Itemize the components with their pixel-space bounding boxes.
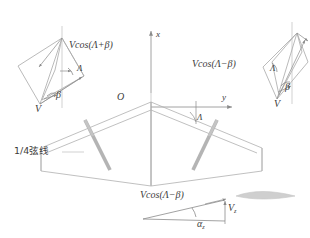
axis-system [151, 31, 232, 185]
right-component-label: Vcos(Λ−β) [192, 59, 236, 69]
bottom-component-label: Vcos(Λ−β) [140, 190, 184, 200]
hypotenuse-arrow [205, 199, 226, 204]
y-axis-label: y [222, 93, 226, 102]
left-spar-inner [85, 120, 93, 136]
right-beta-angle-label: β [285, 82, 290, 92]
right-spar-inner [209, 120, 217, 136]
quarter-chord-note: 1/4弦线 [14, 146, 49, 156]
alpha-arc [192, 208, 196, 217]
wing-planform [41, 102, 262, 186]
wing-sweep-angle-label: Λ [197, 113, 202, 122]
right-sweep-angle-label: Λ [270, 64, 275, 73]
airfoil-section [236, 192, 295, 200]
vertical-component-sub: z [234, 207, 236, 214]
bottom-velocity-triangle [143, 199, 226, 224]
left-sweep-angle-label: Λ [77, 64, 82, 73]
vertical-component-label: Vz [228, 203, 237, 214]
aerodynamics-sweep-diagram: x y O Λ 1/4弦线 Vcos(Λ+β) Λ β V Vcos(Λ−β) … [0, 0, 310, 238]
origin-label: O [117, 92, 124, 102]
diagram-canvas [0, 0, 310, 238]
airfoil-shape [236, 192, 295, 200]
alpha-sub: z [202, 223, 204, 230]
left-beta-angle-label: β [56, 90, 61, 100]
triangle-hypotenuse [143, 200, 225, 219]
left-component-label: Vcos(Λ+β) [69, 40, 113, 50]
alpha-angle-label: αz [197, 219, 205, 230]
right-velocity-label: V [274, 99, 280, 109]
left-velocity-label: V [35, 104, 41, 114]
triangle-base [143, 219, 225, 221]
left-lambda-arc [68, 68, 73, 75]
x-axis-label: x [156, 30, 160, 39]
